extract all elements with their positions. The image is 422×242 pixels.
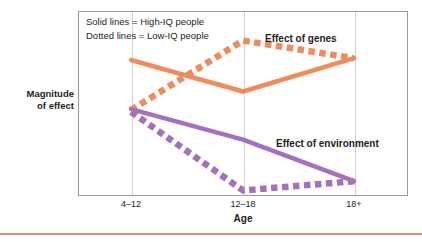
gridline-2	[244, 12, 245, 195]
x-tick-1: 12–18	[230, 199, 255, 209]
legend-entry-dotted: Dotted lines = Low-IQ people	[86, 29, 209, 43]
figure-container: Solid lines = High-IQ people Dotted line…	[0, 0, 422, 242]
x-axis-label: Age	[78, 213, 408, 224]
x-tick-2: 18+	[346, 199, 361, 209]
gridline-3	[355, 12, 356, 195]
x-tick-0: 4–12	[121, 199, 141, 209]
y-axis-label-line1: Magnitude	[8, 88, 74, 100]
legend-entry-solid: Solid lines = High-IQ people	[86, 15, 209, 29]
annotation-effect-of-genes: Effect of genes	[265, 33, 337, 44]
y-axis-label: Magnitude of effect	[8, 88, 74, 112]
x-axis-ticks: 4–12 12–18 18+	[78, 199, 408, 213]
bottom-divider	[0, 233, 422, 235]
y-axis-label-line2: of effect	[8, 100, 74, 112]
annotation-effect-of-environment: Effect of environment	[276, 138, 379, 149]
legend: Solid lines = High-IQ people Dotted line…	[86, 15, 209, 42]
